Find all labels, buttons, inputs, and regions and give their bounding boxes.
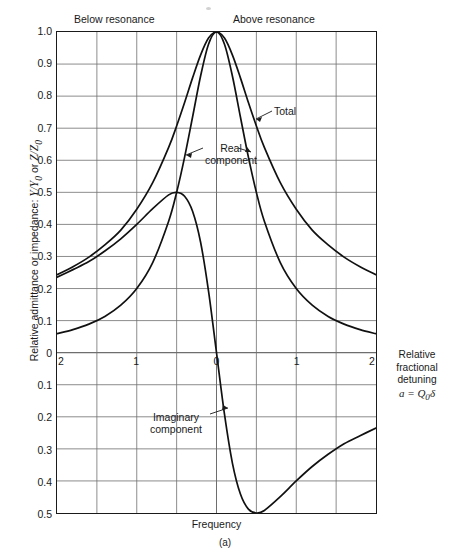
- curve-real-component: [57, 32, 376, 334]
- y-tick-label: 0.9: [8, 58, 52, 68]
- right-axis-line-1: Relative: [386, 349, 448, 362]
- y-axis-title-prefix: Relative admittance or impedance:: [28, 197, 40, 362]
- annotation-imaginary-line-1: Imaginary: [150, 411, 202, 423]
- right-axis-line-2: fractional: [386, 362, 448, 375]
- y-tick-label: 0.8: [8, 90, 52, 100]
- annotation-real-component: Real component: [205, 142, 257, 166]
- annotation-imaginary-line-2: component: [150, 423, 202, 435]
- y-axis-symbol-admittance: Y/Y0: [28, 176, 40, 197]
- plot-area: [56, 31, 377, 514]
- y-tick-label: 0.2: [8, 412, 52, 422]
- y-axis-symbol-impedance: Z/Z0: [28, 140, 40, 161]
- y-axis-title: Relative admittance or impedance: Y/Y0 o…: [28, 111, 43, 391]
- y-tick-label: 0.3: [8, 445, 52, 455]
- figure-caption: (a): [0, 537, 450, 548]
- right-axis-line-3: detuning: [386, 374, 448, 387]
- figure-container: Below resonance Above resonance 1.00.90.…: [0, 0, 450, 557]
- region-label-above-resonance: Above resonance: [233, 13, 315, 25]
- x-tick-label: 1: [294, 356, 300, 366]
- curve-imaginary-component: [57, 192, 376, 513]
- annotation-imaginary-component: Imaginary component: [150, 411, 202, 435]
- region-label-below-resonance: Below resonance: [74, 13, 155, 25]
- y-tick-label: 0.4: [8, 477, 52, 487]
- x-tick-label: 2: [58, 356, 64, 366]
- y-axis-title-conjunction: or: [28, 161, 40, 176]
- right-axis-title: Relative fractional detuning a = Q0δ: [386, 349, 448, 404]
- x-tick-label: 1: [133, 356, 139, 366]
- x-tick-label: 0: [214, 356, 220, 366]
- y-tick-label: 0.5: [8, 509, 52, 519]
- annotation-real-line-1: Real: [205, 142, 257, 154]
- right-axis-formula: a = Q0δ: [386, 387, 448, 404]
- curves: [57, 32, 376, 513]
- y-axis-tick-labels: 1.00.90.80.70.60.50.40.30.20.100.10.20.3…: [0, 0, 52, 557]
- scan-speck: [206, 7, 211, 10]
- x-axis-title: Frequency: [56, 518, 377, 530]
- annotation-real-line-2: component: [205, 154, 257, 166]
- y-tick-label: 1.0: [8, 26, 52, 36]
- annotation-total: Total: [274, 105, 296, 117]
- x-tick-label: 2: [369, 356, 375, 366]
